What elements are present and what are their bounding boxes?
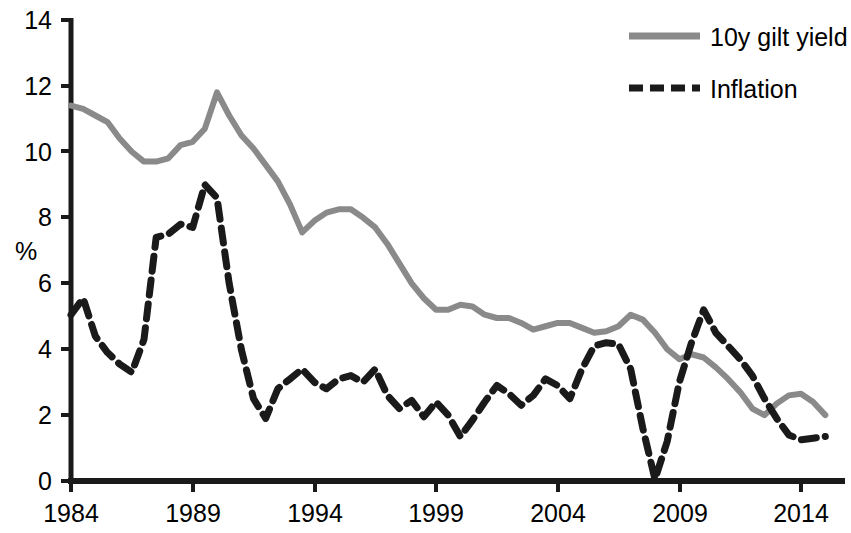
chart-page: 14 12 10 8 6 4 2 0 % 1984 1989 1994 1999 bbox=[0, 0, 851, 533]
x-tick-label: 1984 bbox=[43, 499, 99, 527]
y-tick-label: 6 bbox=[38, 269, 52, 297]
x-tick-label: 2009 bbox=[652, 499, 708, 527]
line-chart: 14 12 10 8 6 4 2 0 % 1984 1989 1994 1999 bbox=[0, 0, 851, 533]
y-tick-label: 2 bbox=[38, 401, 52, 429]
y-tick-label: 12 bbox=[24, 72, 52, 100]
y-tick-label: 4 bbox=[38, 335, 52, 363]
legend-label-gilt-yield: 10y gilt yield bbox=[710, 23, 848, 51]
legend-label-inflation: Inflation bbox=[710, 75, 798, 103]
x-tick-label: 2004 bbox=[530, 499, 586, 527]
y-tick-label: 8 bbox=[38, 203, 52, 231]
y-tick-label: 0 bbox=[38, 467, 52, 495]
y-axis-title: % bbox=[15, 237, 37, 265]
x-tick-label: 1989 bbox=[165, 499, 221, 527]
x-tick-label: 1994 bbox=[287, 499, 343, 527]
x-tick-label: 2014 bbox=[773, 499, 829, 527]
y-tick-label: 14 bbox=[24, 6, 52, 34]
x-tick-label: 1999 bbox=[408, 499, 464, 527]
y-tick-label: 10 bbox=[24, 138, 52, 166]
